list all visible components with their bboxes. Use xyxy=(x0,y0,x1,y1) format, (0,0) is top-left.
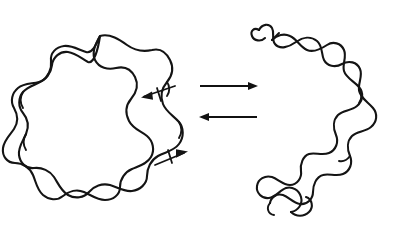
reverse-arrow-head xyxy=(199,113,209,121)
reverse-arrow xyxy=(199,113,257,121)
equilibrium-arrows xyxy=(199,82,258,121)
strand-cut-site-upper xyxy=(141,86,175,101)
linear-dna-free-end-lower-tip xyxy=(268,203,274,215)
circular-dna-crossing-detail-3 xyxy=(21,92,23,108)
forward-arrow-head xyxy=(248,82,258,90)
strand-cut-site-lower xyxy=(155,149,188,165)
circular-dna-crossing-detail-4 xyxy=(24,134,26,150)
dna-equilibrium-figure: Circular duplex DNA in equilibrium with … xyxy=(0,0,410,233)
cut-arrow-upper-tick xyxy=(157,88,161,101)
linear-dna-crossing-detail-1 xyxy=(359,90,361,103)
figure-canvas xyxy=(0,0,410,233)
linear-dna-structure xyxy=(251,25,376,216)
circular-dna-structure xyxy=(3,35,183,200)
cut-arrow-lower-head xyxy=(176,149,188,158)
linear-dna-free-end-upper xyxy=(251,29,265,41)
linear-dna-strand-a xyxy=(259,25,376,204)
forward-arrow xyxy=(200,82,258,90)
circular-dna-strand-a xyxy=(19,35,183,197)
cut-arrow-lower-tick xyxy=(168,150,172,163)
circular-dna-crossing-detail-2 xyxy=(179,122,181,138)
linear-dna-crossing-detail-2 xyxy=(339,156,350,161)
cut-arrow-upper-head xyxy=(141,92,153,100)
